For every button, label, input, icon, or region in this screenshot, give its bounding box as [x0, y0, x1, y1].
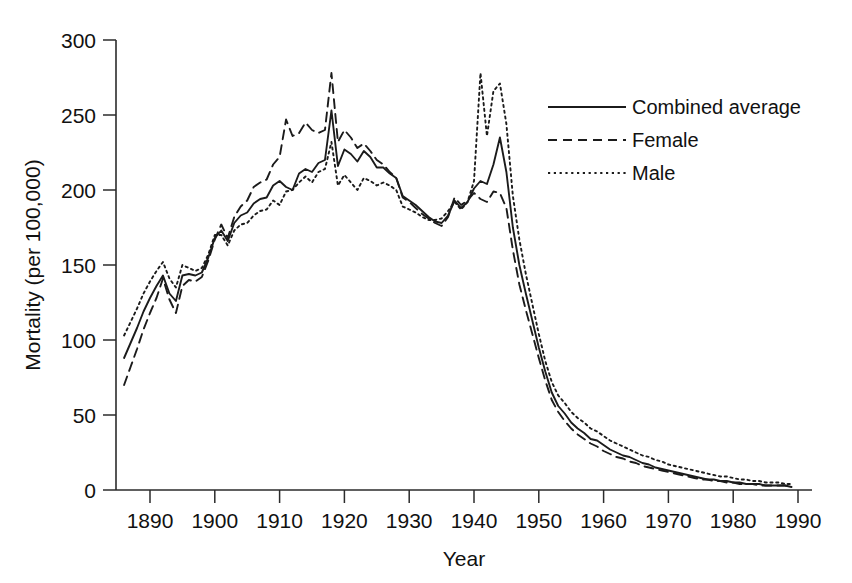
legend-label-female: Female	[632, 129, 699, 151]
legend-label-combined-average: Combined average	[632, 96, 801, 118]
y-axis-title: Mortality (per 100,000)	[21, 159, 44, 370]
x-tick-label: 1970	[645, 509, 692, 532]
x-axis-ticks: 1890190019101920193019401950196019701980…	[127, 490, 822, 532]
x-tick-label: 1990	[775, 509, 822, 532]
x-tick-label: 1930	[386, 509, 433, 532]
y-tick-label: 100	[61, 329, 96, 352]
x-tick-label: 1910	[256, 509, 303, 532]
y-tick-label: 0	[84, 479, 96, 502]
x-tick-label: 1980	[710, 509, 757, 532]
y-tick-label: 150	[61, 254, 96, 277]
x-tick-label: 1900	[191, 509, 238, 532]
x-axis-title: Year	[443, 547, 485, 570]
y-tick-label: 50	[73, 404, 96, 427]
y-tick-label: 300	[61, 29, 96, 52]
chart-legend: Combined averageFemaleMale	[548, 96, 801, 184]
chart-figure: 050100150200250300 189019001910192019301…	[0, 0, 852, 583]
x-tick-label: 1960	[580, 509, 627, 532]
x-tick-label: 1920	[321, 509, 368, 532]
x-tick-label: 1940	[451, 509, 498, 532]
x-tick-label: 1950	[515, 509, 562, 532]
legend-label-male: Male	[632, 162, 675, 184]
y-axis-ticks: 050100150200250300	[61, 29, 116, 502]
x-tick-label: 1890	[127, 509, 174, 532]
mortality-line-chart: 050100150200250300 189019001910192019301…	[0, 0, 852, 583]
y-tick-label: 250	[61, 104, 96, 127]
y-tick-label: 200	[61, 179, 96, 202]
series-combined-average	[124, 111, 791, 488]
